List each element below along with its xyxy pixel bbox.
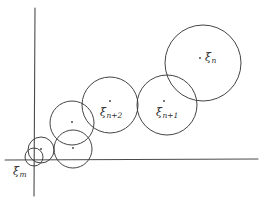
figure-canvas: ξn ξn+1 ξn+2 ξm [0, 0, 268, 203]
circle-unlabeled-b [54, 130, 92, 168]
figure-drawing [0, 0, 268, 203]
label-xi-n-plus-1-sub: n+1 [162, 111, 178, 120]
label-xi-n-sub: n [211, 56, 216, 65]
dot-unlabeled-c [40, 148, 42, 150]
center-dots-group [40, 57, 201, 150]
dot-xi-n-plus-2 [109, 100, 111, 102]
y-axis-line [34, 8, 35, 196]
circle-xi-n-plus-2 [82, 77, 138, 133]
dot-unlabeled-b [72, 147, 74, 149]
dot-xi-n-plus-1 [163, 100, 165, 102]
circle-xi-n-plus-1 [137, 75, 197, 135]
axes-group [5, 8, 258, 196]
label-xi-m-sub: m [19, 170, 26, 179]
dot-unlabeled-a [71, 121, 73, 123]
circle-unlabeled-c [28, 137, 54, 163]
label-xi-n-plus-1: ξn+1 [156, 107, 178, 120]
dot-xi-n [199, 57, 201, 59]
label-xi-n: ξn [205, 52, 216, 65]
circles-group [25, 25, 241, 168]
label-xi-m: ξm [13, 166, 27, 179]
label-xi-n-plus-2: ξn+2 [100, 107, 122, 120]
label-xi-n-plus-2-sub: n+2 [106, 111, 122, 120]
circle-unlabeled-a [50, 101, 94, 145]
circle-xi-n [165, 25, 241, 101]
